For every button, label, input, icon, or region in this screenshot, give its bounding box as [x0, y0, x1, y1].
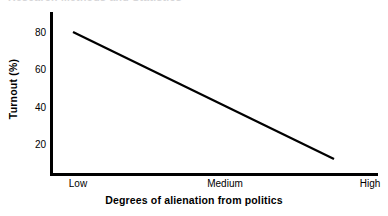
y-tick-80: 80	[18, 28, 46, 38]
y-tick-20: 20	[18, 140, 46, 150]
x-axis-title: Degrees of alienation from politics	[0, 194, 388, 206]
clipped-page-heading: Research Methods and Statistics	[8, 0, 258, 3]
y-tick-60: 60	[18, 65, 46, 75]
y-axis-line	[50, 12, 53, 176]
y-axis-title: Turnout (%)	[7, 39, 19, 139]
x-tick-label-medium: Medium	[185, 178, 265, 190]
y-tick-40: 40	[18, 103, 46, 113]
x-tick-label-low: Low	[38, 178, 118, 190]
y-tick-label-80: 80	[18, 28, 46, 38]
y-tick-label-60: 60	[18, 65, 46, 75]
x-axis-line	[50, 173, 378, 176]
turnout-trend-line	[73, 32, 334, 159]
x-tick-label-high: High	[330, 178, 388, 190]
chart-figure: Research Methods and Statistics Turnout …	[0, 0, 388, 216]
y-tick-label-40: 40	[18, 103, 46, 113]
y-tick-label-20: 20	[18, 140, 46, 150]
